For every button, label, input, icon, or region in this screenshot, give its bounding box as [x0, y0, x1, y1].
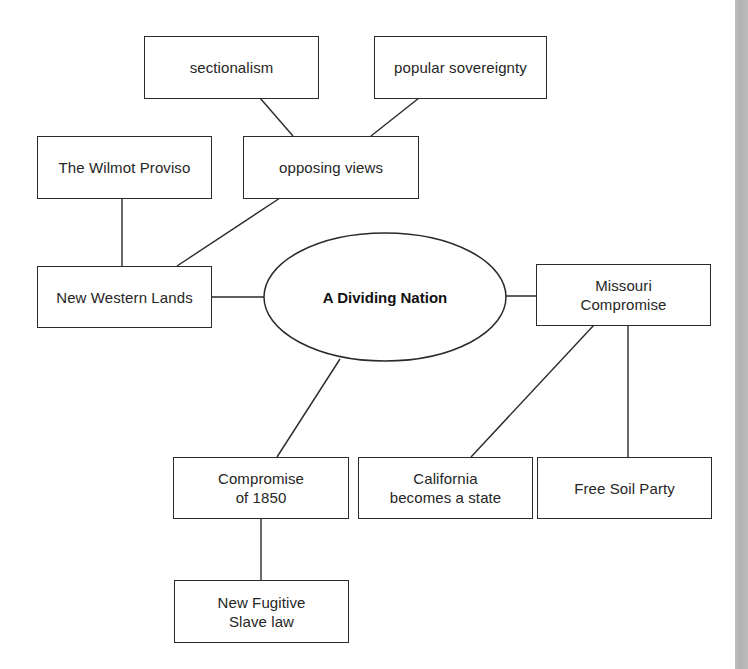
node-label: New Fugitive Slave law	[218, 593, 306, 631]
node-label: Missouri Compromise	[580, 276, 666, 314]
node-label: sectionalism	[190, 58, 274, 77]
node-label: California becomes a state	[390, 469, 502, 507]
node-compromise-1850: Compromise of 1850	[173, 457, 349, 519]
node-opposing-views: opposing views	[243, 136, 419, 199]
node-label: Free Soil Party	[574, 479, 675, 498]
node-label: opposing views	[279, 158, 383, 177]
center-topic-label: A Dividing Nation	[323, 289, 447, 306]
center-topic: A Dividing Nation	[264, 233, 506, 361]
node-california-state: California becomes a state	[358, 457, 533, 519]
edge-center-compromise-1850	[277, 359, 340, 457]
node-popular-sovereignty: popular sovereignty	[374, 36, 547, 99]
node-sectionalism: sectionalism	[144, 36, 319, 99]
node-free-soil-party: Free Soil Party	[537, 457, 712, 519]
node-missouri-compromise: Missouri Compromise	[536, 264, 711, 326]
node-label: Compromise of 1850	[218, 469, 304, 507]
node-label: popular sovereignty	[394, 58, 527, 77]
edge-sectionalism-opposing-views	[260, 98, 293, 136]
node-label: New Western Lands	[56, 288, 193, 307]
node-new-western-lands: New Western Lands	[37, 266, 212, 328]
node-label: The Wilmot Proviso	[59, 158, 191, 177]
node-fugitive-slave-law: New Fugitive Slave law	[174, 580, 349, 643]
node-wilmot-proviso: The Wilmot Proviso	[37, 136, 212, 199]
edge-popular-sovereignty-opposing-views	[371, 98, 419, 136]
